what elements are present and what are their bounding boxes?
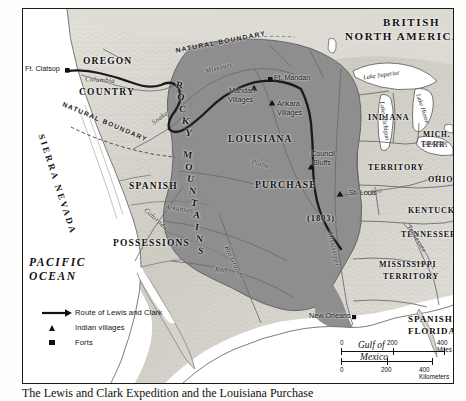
route-arrow-icon <box>39 308 75 318</box>
legend-label-route: Route of Lewis and Clark <box>75 308 162 317</box>
scale-km-unit: 400 Kilometers <box>419 366 449 380</box>
council-bluffs-marker <box>308 164 314 169</box>
new-orleans-marker <box>352 315 356 319</box>
square-icon <box>39 340 75 346</box>
mandan-villages-marker <box>251 85 257 90</box>
legend-label-indian-villages: Indian villages <box>75 323 125 332</box>
map-scale-bars: 0 200 400 Miles 0 <box>341 339 445 375</box>
triangle-icon <box>39 325 75 331</box>
scale-km-zero: 0 <box>340 366 344 373</box>
legend-item-route: Route of Lewis and Clark <box>39 305 219 320</box>
figure-caption: The Lewis and Clark Expedition and the L… <box>22 386 452 401</box>
map-legend: Route of Lewis and Clark Indian villages… <box>39 305 219 350</box>
legend-item-indian-villages: Indian villages <box>39 320 219 335</box>
ft-clatsop-marker <box>65 68 70 73</box>
map-figure: BRITISH NORTH AMERICA OREGON COUNTRY SPA… <box>0 0 466 401</box>
st-louis-marker <box>337 191 343 196</box>
scale-miles-zero: 0 <box>340 339 344 346</box>
arikara-villages-marker <box>269 100 275 105</box>
legend-item-forts: Forts <box>39 335 219 350</box>
scale-km-bar <box>341 358 445 365</box>
ft-mandan-marker <box>268 77 273 82</box>
scale-km-mid: 200 <box>381 366 392 373</box>
map-canvas[interactable]: BRITISH NORTH AMERICA OREGON COUNTRY SPA… <box>22 8 454 384</box>
scale-miles-mid: 200 <box>387 339 398 346</box>
scale-miles-numbers: 0 200 400 Miles <box>341 339 445 348</box>
scale-km-numbers: 0 200 400 Kilometers <box>341 366 445 375</box>
scale-miles-bar <box>341 348 445 355</box>
legend-label-forts: Forts <box>75 338 93 347</box>
